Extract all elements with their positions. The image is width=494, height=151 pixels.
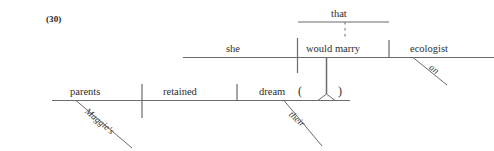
word-she: she <box>226 44 240 55</box>
placeholder-open-paren: ( <box>298 85 302 97</box>
word-retained: retained <box>163 87 197 98</box>
pedestal-right-leg <box>327 94 336 101</box>
pedestal-left-leg <box>318 94 327 101</box>
word-ecologist: ecologist <box>410 44 448 55</box>
word-parents: parents <box>70 87 100 98</box>
word-dream: dream <box>259 87 285 98</box>
placeholder-close-paren: ) <box>338 85 342 97</box>
word-would-marry: would marry <box>306 44 360 55</box>
sentence-diagram-figure: (30) that she wou <box>0 0 494 151</box>
word-that: that <box>331 9 347 20</box>
diagram-lines <box>0 0 494 151</box>
